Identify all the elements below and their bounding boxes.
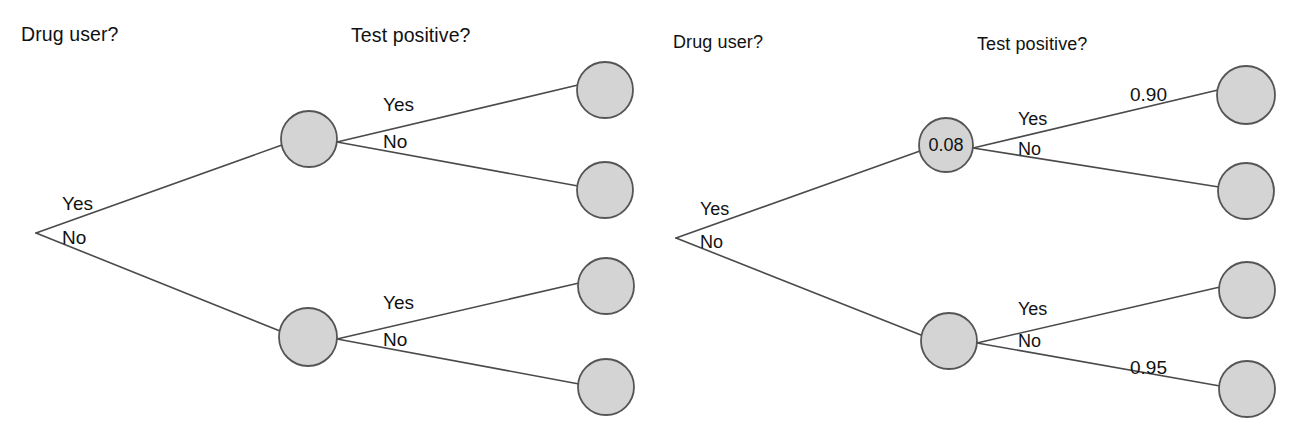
left-tree-edge-no-to-yes	[337, 283, 579, 339]
right-tree-edge-root-to-yes	[676, 151, 920, 238]
left-tree-edge-no-to-no	[337, 339, 579, 384]
edges-layer	[36, 85, 1220, 386]
right-tree-leaf-no-yes[interactable]	[1219, 262, 1275, 318]
right-tree-prob-test-positive-given-user: 0.90	[1130, 85, 1167, 104]
left-tree-label-top-no: No	[383, 132, 407, 151]
left-tree-label-root-no: No	[62, 228, 86, 247]
left-tree-drug-user-header: Drug user?	[21, 25, 118, 45]
right-tree-label-root-no: No	[700, 233, 723, 251]
right-tree-test-positive-header: Test positive?	[977, 35, 1087, 53]
right-tree-label-top-yes: Yes	[1018, 110, 1047, 128]
nodes-layer	[279, 62, 1275, 417]
right-tree-edge-no-to-yes	[977, 287, 1220, 343]
left-tree-node-drug-user-yes[interactable]	[281, 111, 337, 167]
tree-canvas	[0, 0, 1299, 436]
left-tree-label-bottom-yes: Yes	[383, 293, 414, 312]
left-tree-label-root-yes: Yes	[62, 194, 93, 213]
left-tree-node-drug-user-no[interactable]	[279, 308, 337, 366]
right-tree-node-drug-user-no[interactable]	[921, 313, 977, 369]
left-tree-edge-root-to-yes	[36, 145, 282, 233]
right-tree-prob-test-negative-given-nonuser: 0.95	[1130, 358, 1167, 377]
right-tree-label-bottom-yes: Yes	[1018, 300, 1047, 318]
right-tree-drug-user-header: Drug user?	[673, 33, 763, 51]
left-tree-leaf-yes-no[interactable]	[577, 162, 633, 218]
left-tree-leaf-yes-yes[interactable]	[577, 62, 633, 118]
left-tree-edge-yes-to-no	[337, 142, 578, 186]
right-tree-edge-root-to-no	[676, 238, 921, 335]
right-tree-leaf-yes-yes[interactable]	[1217, 66, 1275, 124]
left-tree-label-bottom-no: No	[383, 330, 407, 349]
left-tree-label-top-yes: Yes	[383, 95, 414, 114]
right-tree-edge-yes-to-no	[973, 148, 1219, 187]
left-tree-leaf-no-no[interactable]	[578, 359, 634, 415]
left-tree-test-positive-header: Test positive?	[351, 26, 471, 46]
right-tree-label-bottom-no: No	[1018, 332, 1041, 350]
probability-tree-figure: Drug user?Test positive?YesNoYesNoYesNo0…	[0, 0, 1299, 436]
left-tree-edge-yes-to-yes	[337, 85, 578, 142]
right-tree-leaf-yes-no[interactable]	[1218, 163, 1274, 219]
right-tree-leaf-no-no[interactable]	[1219, 361, 1275, 417]
right-tree-label-top-no: No	[1018, 140, 1041, 158]
right-tree-label-root-yes: Yes	[700, 200, 729, 218]
right-tree-edge-yes-to-yes	[973, 90, 1218, 148]
right-tree-edge-no-to-no	[977, 343, 1220, 386]
right-tree-node-drug-user-yes-value: 0.08	[919, 136, 973, 154]
left-tree-leaf-no-yes[interactable]	[578, 258, 634, 314]
